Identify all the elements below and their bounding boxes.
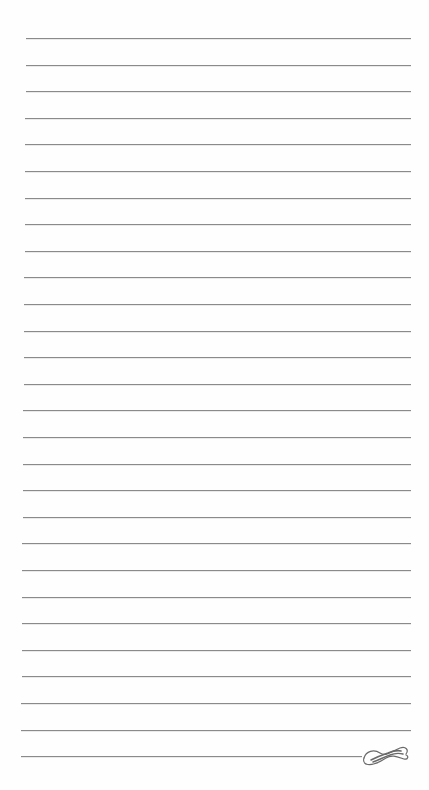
ruled-line bbox=[24, 277, 411, 278]
ruled-line bbox=[21, 756, 362, 757]
ruled-line bbox=[25, 144, 411, 145]
ruled-line bbox=[24, 304, 411, 305]
flourish-icon bbox=[362, 745, 410, 767]
ruled-line bbox=[21, 730, 411, 731]
ruled-line bbox=[22, 570, 411, 571]
notepaper-page bbox=[0, 0, 429, 790]
ruled-line bbox=[22, 650, 411, 651]
ruled-line bbox=[22, 543, 411, 544]
ruled-line bbox=[26, 91, 411, 92]
ruled-line bbox=[25, 224, 411, 225]
ruled-line bbox=[25, 118, 411, 119]
ruled-line bbox=[23, 490, 411, 491]
ruled-line bbox=[23, 464, 411, 465]
ruled-line bbox=[23, 410, 411, 411]
ruled-line bbox=[24, 357, 411, 358]
ruled-line bbox=[22, 676, 411, 677]
ruled-line bbox=[25, 198, 411, 199]
ruled-line bbox=[25, 251, 411, 252]
ruled-line bbox=[24, 331, 411, 332]
ruled-line bbox=[26, 38, 411, 39]
ruled-line bbox=[21, 703, 411, 704]
ruled-line bbox=[23, 437, 411, 438]
ruled-line bbox=[26, 65, 411, 66]
ruled-line bbox=[24, 384, 411, 385]
ruled-line bbox=[22, 623, 411, 624]
ruled-line bbox=[25, 171, 411, 172]
ruled-line bbox=[22, 597, 411, 598]
ruled-line bbox=[23, 517, 411, 518]
